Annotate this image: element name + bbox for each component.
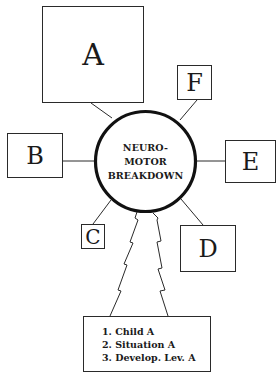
factors-box: 1. Child A 2. Situation A 3. Develop. Le…: [83, 316, 211, 372]
center-label-line-1: NEURO-: [123, 141, 168, 155]
box-c: C: [81, 224, 105, 249]
factor-item-child: 1. Child A: [102, 325, 210, 338]
box-e: E: [225, 140, 276, 183]
box-c-label: C: [85, 227, 100, 247]
factor-item-develop-level: 3. Develop. Lev. A: [102, 351, 210, 364]
center-label-line-2: MOTOR: [124, 155, 167, 169]
center-label: NEURO- MOTOR BREAKDOWN: [94, 110, 197, 213]
box-e-label: E: [242, 150, 260, 174]
center-label-line-3: BREAKDOWN: [108, 169, 184, 183]
factor-item-situation: 2. Situation A: [102, 338, 210, 351]
zigzag-right: [153, 213, 168, 316]
box-b-label: B: [26, 144, 44, 168]
box-b: B: [7, 133, 63, 178]
box-d: D: [180, 225, 236, 272]
box-f: F: [177, 65, 212, 100]
box-d-label: D: [198, 237, 217, 261]
box-a: A: [42, 6, 144, 103]
box-a-label: A: [82, 40, 104, 70]
box-f-label: F: [186, 71, 203, 95]
neuromotor-breakdown-diagram: A F B E C D NEURO- MOTOR BREAKDOWN 1. Ch…: [0, 0, 279, 380]
zigzag-left: [110, 212, 138, 316]
